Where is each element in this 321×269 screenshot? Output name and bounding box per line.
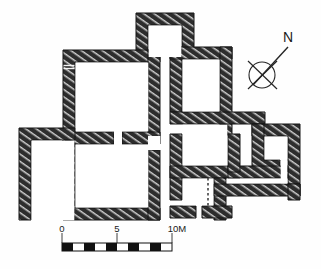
wall-south-stub-a <box>170 206 196 218</box>
wall-southeast-outer-east <box>288 184 300 200</box>
doorway-cross-wall <box>114 132 122 144</box>
room-main-upper-void <box>76 63 149 132</box>
room-main-lower-void <box>76 145 149 208</box>
room-south-corridor-void <box>227 179 288 184</box>
scale-tick-label-5: 5 <box>114 223 119 234</box>
site-plan-figure: N 0 5 10M <box>0 0 321 269</box>
scale-bar-segment <box>84 243 95 251</box>
scale-bar-segment <box>62 243 73 251</box>
wall-main-east-upper <box>148 50 160 136</box>
wall-east-spine <box>170 112 265 124</box>
room-southeast-void <box>265 137 288 160</box>
wall-south-stub-b <box>202 206 232 218</box>
scale-tick-label-10: 10M <box>168 223 187 234</box>
room-west-annex-void <box>32 141 75 221</box>
scale-bar-segment <box>106 243 117 251</box>
room-mid-south-void <box>183 179 214 206</box>
site-plan-svg: N 0 5 10M <box>0 0 321 269</box>
scale-bar-segment <box>150 243 161 251</box>
north-arrow-label: N <box>283 29 293 45</box>
scale-tick-label-0: 0 <box>59 223 64 234</box>
wall-main-east-lower <box>148 150 160 220</box>
room-north-tower-void <box>149 26 182 57</box>
wall-southeast-return <box>214 184 300 196</box>
scale-bar-segment <box>128 243 139 251</box>
doorway-main-east-wall <box>148 136 160 150</box>
room-east-upper-void <box>183 60 220 112</box>
wall-mid-court-east-stub <box>228 134 240 172</box>
room-mid-court-void <box>183 125 228 166</box>
